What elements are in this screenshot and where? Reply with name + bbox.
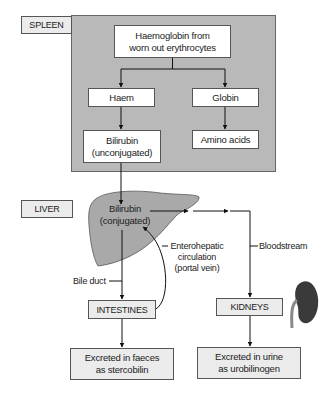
bloodstream-text: Bloodstream: [259, 241, 307, 251]
bilirubin-conj-line2: (conjugated): [95, 215, 155, 227]
kidney-illustration: [292, 281, 319, 328]
urine-line1: Excreted in urine: [215, 351, 283, 363]
bile-duct-text: Bile duct: [73, 276, 106, 286]
enterohepatic-line3: (portal vein): [169, 263, 225, 274]
bilirubin-conjugated-node: Bilirubin (conjugated): [95, 203, 155, 227]
enterohepatic-line1: Enterohepatic: [169, 241, 225, 252]
urine-output-node: Excreted in urine as urobilinogen: [197, 347, 301, 379]
bilirubin-conj-line1: Bilirubin: [95, 203, 155, 215]
enterohepatic-label: Enterohepatic circulation (portal vein): [169, 241, 225, 274]
kidneys-text: KIDNEYS: [230, 301, 268, 313]
bile-duct-label: Bile duct: [73, 276, 106, 287]
bloodstream-label: Bloodstream: [259, 241, 307, 252]
urine-line2: as urobilinogen: [218, 363, 279, 375]
kidneys-node: KIDNEYS: [216, 298, 283, 316]
enterohepatic-line2: circulation: [169, 252, 225, 263]
faeces-output-node: Excreted in faeces as stercobilin: [70, 348, 174, 380]
intestines-node: INTESTINES: [88, 300, 156, 319]
faeces-line2: as stercobilin: [96, 364, 149, 376]
faeces-line1: Excreted in faeces: [85, 352, 160, 364]
diagram-connectors: [0, 0, 329, 397]
intestines-text: INTESTINES: [96, 304, 147, 316]
